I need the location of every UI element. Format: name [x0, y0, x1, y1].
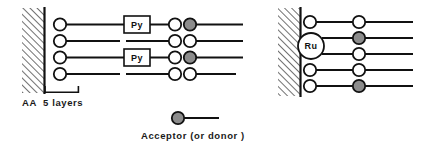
left-panel: Py Py [22, 7, 243, 94]
left-chain-row-1 [54, 35, 243, 47]
right-chain-row-4 [304, 80, 413, 92]
left-chain-row-3 [54, 68, 236, 80]
legend-filled-circle-icon [172, 112, 184, 124]
right-anchor-circle-0 [304, 16, 316, 28]
left-substrate [22, 7, 45, 94]
ru-label: Ru [305, 41, 318, 51]
right-end-circle-0 [353, 16, 365, 28]
left-anchor-circle-1 [54, 35, 66, 47]
left-chain-row-0: Py [54, 16, 243, 33]
aa-layers-caption: AA 5 layers [22, 97, 83, 108]
right-chain-row-2 [322, 48, 413, 60]
legend-caption: Acceptor (or donor ) [141, 130, 245, 141]
legend-marker [172, 112, 219, 124]
left-end-circle-2 [184, 51, 196, 63]
left-chain-row-2: Py [54, 49, 243, 66]
right-anchor-circle-3 [304, 64, 316, 76]
right-end-circle-3 [353, 64, 365, 76]
right-end-circle-2 [353, 48, 365, 60]
left-mid-circle-2 [169, 51, 181, 63]
py-box-label-0: Py [131, 20, 143, 30]
right-chain-row-3 [304, 64, 413, 76]
right-substrate [278, 7, 301, 97]
left-anchor-circle-3 [54, 68, 66, 80]
right-chain-row-0 [304, 16, 413, 28]
right-chain-row-1 [322, 32, 413, 44]
py-box-label-2: Py [131, 53, 143, 63]
left-mid-circle-3 [169, 68, 181, 80]
left-mid-circle-0 [169, 18, 181, 30]
left-end-circle-3 [184, 68, 196, 80]
right-anchor-circle-4 [304, 80, 316, 92]
ru-complex: Ru [298, 33, 324, 59]
left-end-circle-1 [184, 35, 196, 47]
left-mid-circle-1 [169, 35, 181, 47]
layer-bracket [45, 86, 79, 93]
right-panel: Ru [278, 7, 413, 97]
left-end-circle-0 [184, 18, 196, 30]
schematic-svg: Py Py [0, 0, 423, 149]
left-anchor-circle-0 [54, 18, 66, 30]
right-end-circle-1 [353, 32, 365, 44]
figure-canvas: Py Py [0, 0, 423, 149]
left-anchor-circle-2 [54, 51, 66, 63]
right-end-circle-4 [353, 80, 365, 92]
